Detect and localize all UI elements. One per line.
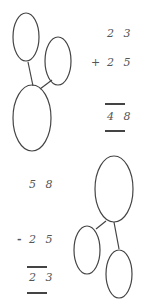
difference: 2 3 bbox=[29, 271, 56, 284]
whole-circle-bottom[interactable] bbox=[95, 156, 133, 222]
minus-sign: - bbox=[17, 233, 22, 246]
number-bond-diagrams bbox=[0, 0, 149, 307]
addend-2: 2 5 bbox=[107, 56, 134, 69]
plus-sign: + bbox=[91, 56, 100, 69]
bond-connector bbox=[96, 221, 106, 229]
sum: 4 8 bbox=[107, 110, 134, 123]
part-circle-top-right[interactable] bbox=[45, 37, 71, 85]
difference-line-bottom bbox=[27, 292, 47, 294]
difference-line-top bbox=[27, 266, 47, 268]
part-circle-bottom-left[interactable] bbox=[74, 226, 100, 274]
addend-1: 2 3 bbox=[107, 27, 134, 40]
part-circle-top-left[interactable] bbox=[13, 13, 39, 61]
subtrahend: 2 5 bbox=[29, 233, 56, 246]
sum-line-bottom bbox=[105, 130, 125, 132]
minuend: 5 8 bbox=[29, 178, 56, 191]
bond-connector bbox=[40, 80, 52, 89]
whole-circle-top[interactable] bbox=[13, 85, 51, 151]
bond-connector bbox=[114, 222, 119, 249]
part-circle-bottom-right[interactable] bbox=[106, 250, 132, 298]
sum-line-top bbox=[105, 103, 125, 105]
bond-connector bbox=[28, 62, 33, 86]
